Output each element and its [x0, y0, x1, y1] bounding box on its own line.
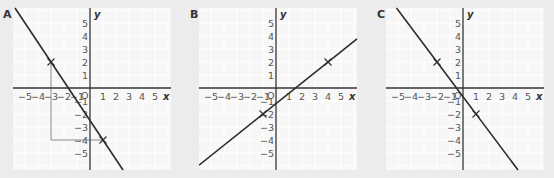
x-tick-label: 2: [113, 91, 119, 102]
grid-background: [386, 8, 544, 170]
y-tick-label: −5: [74, 148, 88, 159]
graph-c-label: C: [377, 8, 385, 21]
x-tick-label: −5: [391, 91, 405, 102]
y-tick-label: −3: [447, 122, 461, 133]
x-tick-label: 3: [312, 91, 318, 102]
x-tick-label: 5: [525, 91, 531, 102]
grid-background: [13, 8, 171, 170]
y-tick-label: −2: [447, 109, 461, 120]
y-tick-label: 2: [268, 57, 274, 68]
graph-b-plot: −5−4−3−2−11234554321−1−2−3−4−5Oxy: [199, 0, 359, 178]
y-tick-label: 1: [268, 70, 274, 81]
y-tick-label: 5: [82, 18, 88, 29]
y-axis-label: y: [280, 9, 287, 20]
x-tick-label: 2: [486, 91, 492, 102]
y-tick-label: 4: [82, 31, 88, 42]
y-tick-label: 3: [82, 44, 88, 55]
y-tick-label: 2: [82, 57, 88, 68]
y-tick-label: −3: [74, 122, 88, 133]
y-tick-label: 1: [455, 70, 461, 81]
y-tick-label: −5: [260, 148, 274, 159]
x-tick-label: −3: [417, 91, 431, 102]
x-tick-label: 1: [100, 91, 106, 102]
x-tick-label: 2: [299, 91, 305, 102]
y-tick-label: 4: [268, 31, 274, 42]
x-tick-label: −3: [44, 91, 58, 102]
x-tick-label: −2: [430, 91, 444, 102]
x-tick-label: 3: [499, 91, 505, 102]
y-tick-label: 1: [82, 70, 88, 81]
y-tick-label: 5: [455, 18, 461, 29]
x-tick-label: 5: [152, 91, 158, 102]
y-tick-label: −5: [447, 148, 461, 159]
graph-b: −5−4−3−2−11234554321−1−2−3−4−5Oxy: [199, 0, 359, 178]
x-tick-label: 1: [473, 91, 479, 102]
y-tick-label: 2: [455, 57, 461, 68]
y-axis-label: y: [94, 9, 101, 20]
x-axis-label: x: [162, 91, 170, 102]
graph-c-plot: −5−4−3−2−11234554321−1−2−3−4−5Oxy: [386, 0, 546, 178]
origin-label: O: [454, 90, 461, 101]
y-tick-label: −4: [447, 135, 461, 146]
graph-a-label: A: [3, 8, 12, 21]
x-tick-label: −2: [57, 91, 71, 102]
x-tick-label: −4: [404, 91, 418, 102]
graph-b-label: B: [190, 8, 198, 21]
x-tick-label: −2: [243, 91, 257, 102]
x-tick-label: 5: [338, 91, 344, 102]
graph-c: −5−4−3−2−11234554321−1−2−3−4−5Oxy: [386, 0, 546, 178]
y-axis-label: y: [467, 9, 474, 20]
y-tick-label: 3: [455, 44, 461, 55]
y-tick-label: −3: [260, 122, 274, 133]
x-axis-label: x: [535, 91, 543, 102]
y-tick-label: 4: [455, 31, 461, 42]
y-tick-label: 3: [268, 44, 274, 55]
x-tick-label: 4: [325, 91, 331, 102]
graph-a: −5−4−3−2−11234554321−1−2−3−4−5Oxy: [13, 0, 173, 178]
origin-label: O: [81, 90, 88, 101]
graph-a-plot: −5−4−3−2−11234554321−1−2−3−4−5Oxy: [13, 0, 173, 178]
x-axis-label: x: [348, 91, 356, 102]
x-tick-label: 4: [139, 91, 145, 102]
x-tick-label: 4: [512, 91, 518, 102]
x-tick-label: −4: [31, 91, 45, 102]
y-tick-label: −4: [260, 135, 274, 146]
x-tick-label: −3: [230, 91, 244, 102]
x-tick-label: −5: [18, 91, 32, 102]
y-tick-label: 5: [268, 18, 274, 29]
origin-label: O: [267, 90, 274, 101]
x-tick-label: −5: [204, 91, 218, 102]
y-tick-label: −4: [74, 135, 88, 146]
x-tick-label: −4: [217, 91, 231, 102]
x-tick-label: 3: [126, 91, 132, 102]
